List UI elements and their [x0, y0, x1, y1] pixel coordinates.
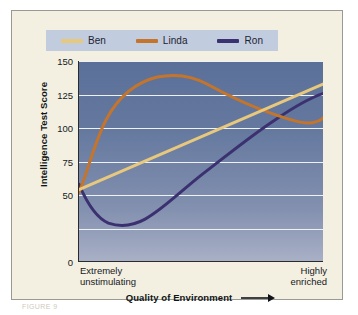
x-tick-left-line1: Extremely [80, 265, 136, 276]
plot-area [78, 61, 323, 262]
y-tick-150: 150 [57, 56, 73, 67]
legend-item-linda[interactable]: Linda [136, 35, 188, 46]
x-tick-left: Extremely unstimulating [80, 265, 136, 287]
legend-item-ben[interactable]: Ben [61, 35, 106, 46]
chart-legend: Ben Linda Ron [46, 30, 278, 51]
y-tick-125: 125 [57, 89, 73, 100]
figure-panel: Ben Linda Ron Intelligence Test Score [11, 10, 343, 300]
y-tick-75: 75 [62, 156, 73, 167]
y-tick-100: 100 [57, 123, 73, 134]
x-tick-right-line1: Highly [291, 265, 327, 276]
legend-item-ron[interactable]: Ron [217, 35, 263, 46]
line-swatch-icon [61, 39, 83, 43]
x-axis-title: Quality of Environment [126, 292, 233, 303]
x-axis-title-row: Quality of Environment [78, 292, 323, 303]
y-tick-50: 50 [62, 190, 73, 201]
figure-caption-sliver: FIGURE 9 [22, 303, 57, 310]
legend-label-ron: Ron [244, 35, 263, 46]
legend-label-ben: Ben [88, 35, 106, 46]
line-swatch-icon [136, 39, 158, 43]
legend-label-linda: Linda [163, 35, 188, 46]
y-tick-0: 0 [68, 257, 73, 268]
y-axis-title: Intelligence Test Score [38, 55, 49, 215]
line-swatch-icon [217, 39, 239, 43]
series-lines [79, 61, 323, 262]
right-arrow-icon [241, 293, 275, 303]
x-tick-right: Highly enriched [291, 265, 327, 287]
x-tick-left-line2: unstimulating [80, 276, 136, 287]
series-line-ron [79, 93, 323, 225]
plot-wrapper: 150 125 100 75 50 0 Extremely unstimulat… [78, 61, 323, 262]
x-tick-right-line2: enriched [291, 276, 327, 287]
